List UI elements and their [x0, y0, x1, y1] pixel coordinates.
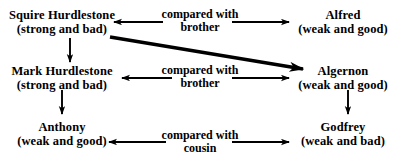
- node-algernon-trait: (weak and good): [292, 78, 394, 92]
- node-godfrey-name: Godfrey: [292, 120, 394, 134]
- node-godfrey: Godfrey (weak and bad): [292, 120, 394, 148]
- edge-label-brother-top-line1: compared with: [140, 8, 260, 21]
- node-mark-hurdlestone-name: Mark Hurdlestone: [2, 64, 122, 78]
- edge-label-cousin-line1: compared with: [140, 129, 260, 142]
- node-algernon-name: Algernon: [292, 64, 394, 78]
- edge-label-compared-with-cousin: compared with cousin: [140, 129, 260, 156]
- edge-label-brother-top-line2: brother: [140, 21, 260, 34]
- node-mark-hurdlestone-trait: (strong and bad): [2, 78, 122, 92]
- node-squire-hurdlestone: Squire Hurdlestone (strong and bad): [2, 8, 122, 36]
- edge-label-brother-middle-line1: compared with: [140, 64, 260, 77]
- node-algernon: Algernon (weak and good): [292, 64, 394, 92]
- edge-label-brother-middle-line2: brother: [140, 77, 260, 90]
- node-alfred-name: Alfred: [292, 8, 394, 22]
- node-squire-hurdlestone-trait: (strong and bad): [2, 22, 122, 36]
- node-godfrey-trait: (weak and bad): [292, 134, 394, 148]
- edge-label-compared-with-brother-middle: compared with brother: [140, 64, 260, 91]
- node-anthony-name: Anthony: [2, 120, 122, 134]
- node-anthony: Anthony (weak and good): [2, 120, 122, 148]
- character-comparison-diagram: Squire Hurdlestone (strong and bad) Alfr…: [0, 0, 396, 168]
- node-mark-hurdlestone: Mark Hurdlestone (strong and bad): [2, 64, 122, 92]
- node-alfred: Alfred (weak and good): [292, 8, 394, 36]
- node-anthony-trait: (weak and good): [2, 134, 122, 148]
- node-squire-hurdlestone-name: Squire Hurdlestone: [2, 8, 122, 22]
- node-alfred-trait: (weak and good): [292, 22, 394, 36]
- edge-label-cousin-line2: cousin: [140, 142, 260, 155]
- edge-label-compared-with-brother-top: compared with brother: [140, 8, 260, 35]
